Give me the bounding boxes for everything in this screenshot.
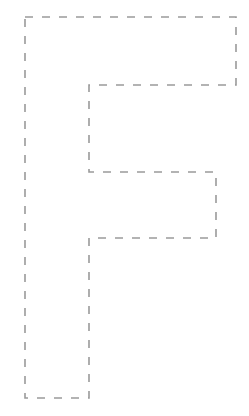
figure-canvas bbox=[0, 0, 249, 416]
f-outline-path bbox=[25, 17, 236, 398]
letter-f-dashed-outline bbox=[0, 0, 249, 416]
